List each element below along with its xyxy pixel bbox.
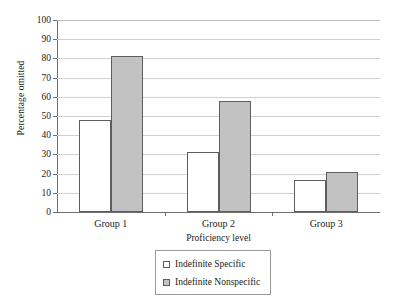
- gridline: [57, 39, 380, 40]
- y-tick-mark: [53, 78, 57, 79]
- bar-nonspecific: [326, 172, 358, 212]
- y-tick-label: 0: [27, 207, 51, 217]
- legend-swatch-specific-icon: [163, 261, 170, 268]
- y-tick-label: 60: [27, 92, 51, 102]
- y-tick-mark: [53, 193, 57, 194]
- gridline: [57, 58, 380, 59]
- y-tick-label: 30: [27, 149, 51, 159]
- y-tick-mark: [53, 20, 57, 21]
- y-tick-mark: [53, 154, 57, 155]
- y-tick-mark: [53, 39, 57, 40]
- legend-label: Indefinite Nonspecific: [175, 277, 260, 287]
- bar-chart: Percentage omitted 010203040506070809010…: [0, 0, 398, 307]
- bar-specific: [79, 120, 111, 212]
- x-axis-title: Proficiency level: [57, 233, 380, 243]
- y-tick-label: 80: [27, 53, 51, 63]
- gridline: [57, 20, 380, 21]
- legend-swatch-nonspecific-icon: [163, 279, 170, 286]
- bar-nonspecific: [111, 56, 143, 212]
- bar-nonspecific: [219, 101, 251, 212]
- bar-specific: [294, 180, 326, 212]
- x-tick-label: Group 3: [310, 218, 343, 229]
- x-tick-label: Group 1: [94, 218, 127, 229]
- plot-area: 0102030405060708090100 Group 1Group 2Gro…: [57, 20, 380, 212]
- y-tick-mark: [53, 212, 57, 213]
- legend: Indefinite Specific Indefinite Nonspecif…: [155, 250, 271, 295]
- gridline: [57, 97, 380, 98]
- legend-item: Indefinite Nonspecific: [163, 273, 270, 291]
- x-tick-mark: [165, 212, 166, 216]
- y-tick-label: 50: [27, 111, 51, 121]
- y-tick-label: 40: [27, 130, 51, 140]
- y-tick-mark: [53, 116, 57, 117]
- x-tick-mark: [272, 212, 273, 216]
- bar-specific: [187, 152, 219, 212]
- legend-label: Indefinite Specific: [175, 259, 245, 269]
- legend-item: Indefinite Specific: [163, 255, 270, 273]
- y-tick-label: 20: [27, 169, 51, 179]
- x-axis-line: [57, 212, 380, 213]
- y-tick-label: 70: [27, 73, 51, 83]
- y-tick-label: 100: [27, 15, 51, 25]
- y-tick-mark: [53, 58, 57, 59]
- y-axis-title: Percentage omitted: [16, 38, 26, 158]
- y-tick-label: 10: [27, 188, 51, 198]
- x-tick-label: Group 2: [202, 218, 235, 229]
- y-tick-label: 90: [27, 34, 51, 44]
- y-tick-mark: [53, 97, 57, 98]
- y-tick-mark: [53, 174, 57, 175]
- gridline: [57, 78, 380, 79]
- y-tick-mark: [53, 135, 57, 136]
